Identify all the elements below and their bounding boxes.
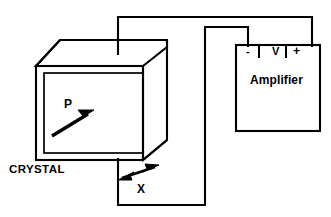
amplifier-label: Amplifier xyxy=(250,74,303,86)
polarization-arrow-icon xyxy=(52,110,94,136)
strain-arrow-icon xyxy=(118,164,159,180)
wire-bottom-lead-to-negative-terminal xyxy=(118,27,248,205)
diagram-canvas xyxy=(0,0,331,217)
amplifier-box xyxy=(236,45,320,131)
cube-front-electrode-plate xyxy=(44,73,143,153)
polarization-label: P xyxy=(64,98,72,110)
wire-top-lead-to-positive-terminal xyxy=(118,17,312,55)
strain-label: X xyxy=(137,183,145,195)
positive-terminal-label: + xyxy=(293,45,300,57)
crystal-label: CRYSTAL xyxy=(9,164,65,176)
cube-top-left-diagonal-edge xyxy=(36,40,60,66)
voltage-terminal-label: V xyxy=(272,46,280,57)
cube-bottom-right-diagonal-edge xyxy=(143,140,167,160)
piezoelectric-crystal-diagram: CRYSTAL P X Amplifier - V + xyxy=(0,0,331,217)
negative-terminal-label: - xyxy=(246,46,250,57)
